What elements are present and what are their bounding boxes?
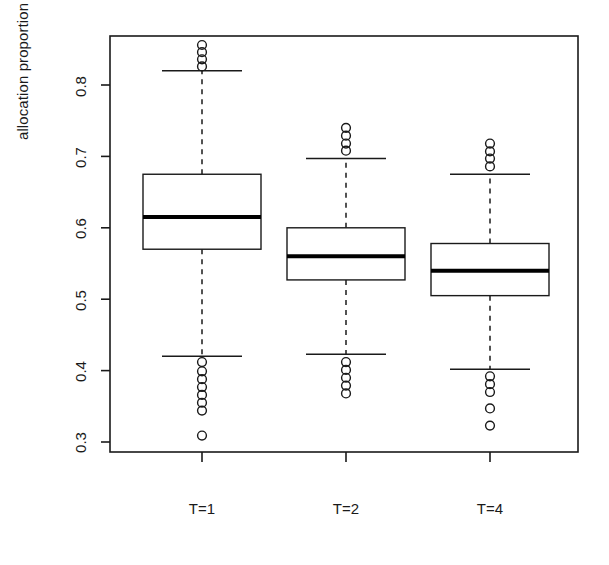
x-tick-label-1: T=2 <box>306 500 386 517</box>
y-tick-label-4: 0.7 <box>70 149 91 166</box>
outlier-low-4 <box>486 421 495 430</box>
x-axis-ticks <box>202 452 490 462</box>
y-tick-label-5: 0.8 <box>70 78 91 95</box>
box-series <box>143 41 549 440</box>
outlier-low-0 <box>198 358 207 367</box>
boxplot-T2 <box>287 123 405 397</box>
y-tick-label-1: 0.4 <box>70 363 91 380</box>
x-tick-label-2: T=4 <box>450 500 530 517</box>
boxplot-T1 <box>143 41 261 440</box>
boxplot-T4 <box>431 139 549 430</box>
y-axis-title: allocation proportion <box>14 0 31 140</box>
y-tick-label-3: 0.6 <box>70 220 91 237</box>
plot-canvas <box>0 0 609 565</box>
outlier-low-3 <box>486 404 495 413</box>
y-tick-label-2: 0.5 <box>70 292 91 309</box>
y-axis-ticks <box>101 85 110 442</box>
box-iqr <box>287 228 405 280</box>
box-iqr <box>143 174 261 249</box>
y-tick-label-0: 0.3 <box>70 434 91 451</box>
boxplot-figure: allocation proportion 0.3 0.4 0.5 0.6 0.… <box>0 0 609 565</box>
outlier-low-7 <box>198 431 207 440</box>
x-tick-label-0: T=1 <box>162 500 242 517</box>
